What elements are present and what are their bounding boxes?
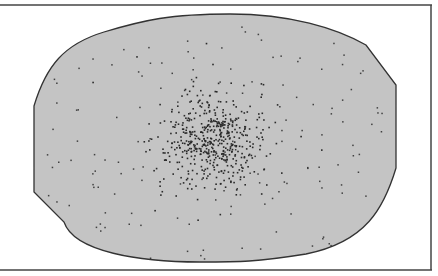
figure	[0, 0, 438, 276]
figure-canvas	[0, 0, 438, 276]
region-shape	[34, 14, 396, 262]
